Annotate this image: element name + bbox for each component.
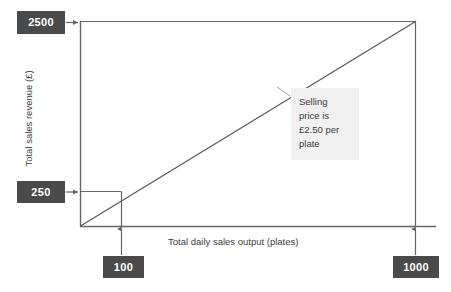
chart-drawing-layer [0,0,451,292]
x-axis-value-callout-1000: 1000 [393,256,439,278]
y-axis-value-callout-250: 250 [17,181,65,203]
annotation-line-3: £2.50 per [299,123,351,137]
y-axis-value-callout-2500: 2500 [17,11,65,34]
x-axis-value-callout-100: 100 [103,256,144,278]
leader-annotation [277,87,290,96]
revenue-chart: 2500 250 100 1000 Total sales revenue (£… [0,0,451,292]
annotation-line-1: Selling [299,95,351,109]
selling-price-annotation: Selling price is £2.50 per plate [291,88,359,160]
x-axis-title: Total daily sales output (plates) [168,236,298,247]
revenue-line [81,22,416,227]
y-axis-title: Total sales revenue (£) [23,59,34,179]
annotation-line-2: price is [299,109,351,123]
annotation-line-4: plate [299,137,351,151]
